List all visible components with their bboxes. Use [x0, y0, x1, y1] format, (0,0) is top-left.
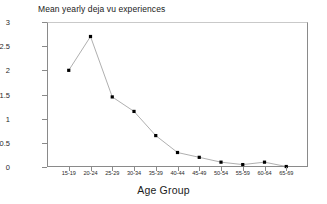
- x-tick-mark: [286, 167, 287, 171]
- x-tick-mark: [112, 167, 113, 171]
- y-tick-label: 1.5: [0, 90, 10, 99]
- x-axis-title: Age Group: [0, 184, 327, 196]
- x-tick-mark: [243, 167, 244, 171]
- chart-screenshot: Mean yearly deja vu experiences 00.511.5…: [0, 0, 327, 204]
- y-tick-label: 3: [6, 18, 10, 27]
- chart-title: Mean yearly deja vu experiences: [38, 4, 165, 14]
- x-tick-mark: [156, 167, 157, 171]
- x-tick-mark: [221, 167, 222, 171]
- y-tick-label: 0: [6, 163, 10, 172]
- x-axis: 15-1920-2425-2930-3435-3940-4445-4950-54…: [0, 170, 327, 182]
- x-tick-mark: [91, 167, 92, 171]
- x-tick-mark: [199, 167, 200, 171]
- y-tick-mark: [42, 167, 47, 168]
- y-tick-label: 2.5: [0, 42, 10, 51]
- x-tick-mark: [178, 167, 179, 171]
- plot-area: [47, 22, 308, 167]
- x-tick-mark: [134, 167, 135, 171]
- y-tick-label: 0.5: [0, 138, 10, 147]
- y-tick-label: 2: [6, 66, 10, 75]
- x-tick-mark: [265, 167, 266, 171]
- y-axis: 00.511.522.53: [0, 0, 44, 204]
- x-tick-mark: [69, 167, 70, 171]
- y-tick-label: 1: [6, 114, 10, 123]
